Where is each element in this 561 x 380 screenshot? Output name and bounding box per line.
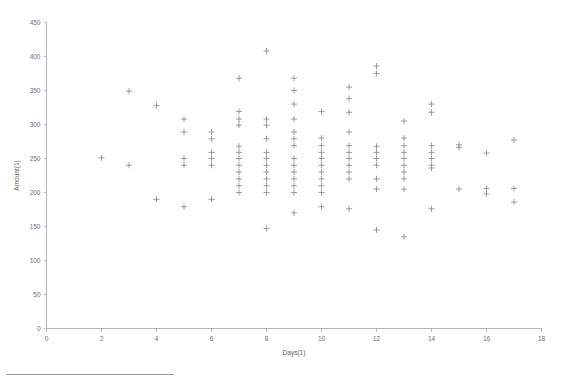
data-point [346, 176, 352, 182]
x-tick-label: 10 [318, 335, 326, 342]
data-point [401, 176, 407, 182]
data-point [346, 156, 352, 162]
data-point [346, 109, 352, 115]
data-point [181, 116, 187, 122]
data-point [181, 204, 187, 210]
data-point [209, 149, 215, 155]
y-tick-label: 50 [33, 291, 41, 298]
data-point [209, 129, 215, 135]
data-point [291, 88, 297, 94]
data-point [291, 116, 297, 122]
data-point [126, 162, 132, 168]
data-point [154, 102, 160, 108]
data-point [346, 84, 352, 90]
data-point [264, 48, 270, 54]
data-point [264, 156, 270, 162]
data-point [264, 162, 270, 168]
data-point [374, 149, 380, 155]
y-tick-label: 350 [30, 87, 41, 94]
scatter-plot-figure: 0501001502002503003504004500246810121416… [0, 0, 561, 380]
data-point [209, 196, 215, 202]
x-axis-title: Days(1) [283, 349, 306, 357]
data-point [511, 185, 517, 191]
data-point [291, 210, 297, 216]
data-point [264, 176, 270, 182]
data-point [319, 176, 325, 182]
data-point [456, 145, 462, 151]
y-tick-label: 450 [30, 19, 41, 26]
data-point [209, 136, 215, 142]
data-point [319, 169, 325, 175]
data-point [264, 183, 270, 189]
data-point [99, 155, 105, 161]
data-point [291, 176, 297, 182]
data-point [236, 109, 242, 115]
x-tick-label: 14 [428, 335, 436, 342]
data-point [429, 143, 435, 149]
data-point [401, 162, 407, 168]
y-axis-title: Amount(1) [13, 160, 21, 190]
x-tick-label: 2 [100, 335, 104, 342]
data-point [126, 88, 132, 94]
data-point [346, 143, 352, 149]
data-point [429, 156, 435, 162]
data-point [264, 169, 270, 175]
data-point [319, 135, 325, 141]
data-point [154, 196, 160, 202]
data-point [374, 186, 380, 192]
data-point [374, 227, 380, 233]
data-point [346, 129, 352, 135]
data-point [291, 143, 297, 149]
data-point [429, 165, 435, 171]
data-point [374, 176, 380, 182]
data-point [374, 156, 380, 162]
data-point [264, 226, 270, 232]
data-point [236, 169, 242, 175]
data-point [264, 149, 270, 155]
data-point [291, 101, 297, 107]
data-point [264, 116, 270, 122]
data-point [319, 183, 325, 189]
data-point [401, 156, 407, 162]
data-point [209, 156, 215, 162]
data-point [236, 143, 242, 149]
data-point [236, 75, 242, 81]
data-point [429, 149, 435, 155]
data-point [374, 162, 380, 168]
data-point [429, 109, 435, 115]
x-tick-label: 4 [155, 335, 159, 342]
data-point [291, 190, 297, 196]
data-point [291, 136, 297, 142]
data-point [291, 162, 297, 168]
data-point [346, 162, 352, 168]
data-point [511, 199, 517, 205]
data-point [181, 162, 187, 168]
data-point [319, 143, 325, 149]
y-tick-label: 300 [30, 121, 41, 128]
data-point [319, 162, 325, 168]
data-point [401, 143, 407, 149]
x-tick-label: 12 [373, 335, 381, 342]
data-point [236, 156, 242, 162]
data-point [264, 190, 270, 196]
data-point [429, 206, 435, 212]
data-point [181, 156, 187, 162]
data-point [319, 190, 325, 196]
data-point [319, 156, 325, 162]
data-point [401, 234, 407, 240]
data-point [264, 136, 270, 142]
data-point [401, 135, 407, 141]
data-point [236, 149, 242, 155]
data-point [374, 71, 380, 77]
data-point [401, 169, 407, 175]
data-point [291, 129, 297, 135]
data-point [236, 176, 242, 182]
data-point [264, 122, 270, 128]
y-tick-label: 0 [37, 325, 41, 332]
data-point [456, 186, 462, 192]
y-tick-label: 250 [30, 155, 41, 162]
footer-divider [6, 374, 174, 375]
data-point [319, 204, 325, 210]
data-point [291, 75, 297, 81]
data-point [511, 137, 517, 143]
